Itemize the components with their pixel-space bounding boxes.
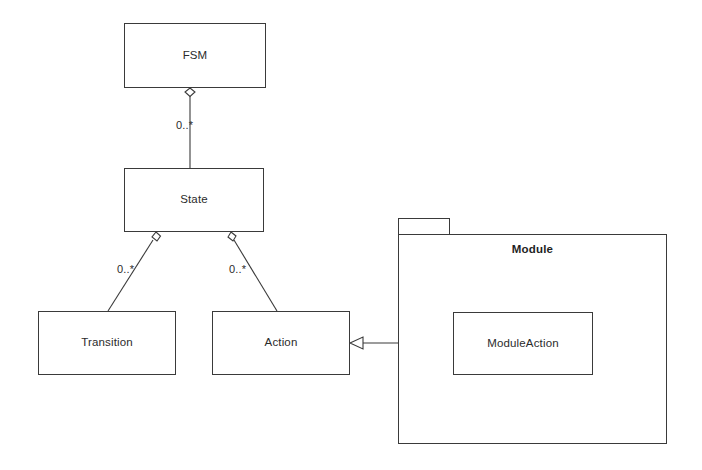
class-box-state[interactable]: State: [124, 168, 264, 232]
aggregation-diamond-state-transition: [152, 232, 161, 241]
association-line-state-action: [234, 240, 277, 311]
class-box-fsm[interactable]: FSM: [124, 23, 266, 88]
class-box-action[interactable]: Action: [212, 311, 350, 375]
aggregation-diamond-state-action: [228, 232, 236, 241]
package-title: Module: [398, 243, 667, 255]
multiplicity-state-transition: 0..*: [117, 263, 134, 275]
uml-class-diagram: Module FSM State Transition Action Modul…: [0, 0, 702, 470]
class-name-action: Action: [265, 337, 298, 349]
class-name-fsm: FSM: [183, 50, 208, 62]
package-tab: [398, 218, 450, 235]
generalization-arrowhead: [350, 337, 363, 349]
aggregation-diamond-fsm: [185, 88, 195, 97]
multiplicity-fsm-state: 0..*: [176, 119, 193, 131]
multiplicity-state-action: 0..*: [229, 263, 246, 275]
association-line-state-transition: [108, 240, 153, 311]
class-box-transition[interactable]: Transition: [38, 311, 176, 375]
class-name-module-action: ModuleAction: [487, 338, 558, 350]
class-name-transition: Transition: [81, 337, 133, 349]
class-box-module-action[interactable]: ModuleAction: [453, 312, 593, 375]
class-name-state: State: [180, 194, 208, 206]
